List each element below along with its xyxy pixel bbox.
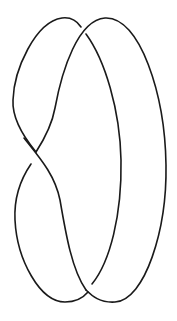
strand-inner-arc: [86, 34, 121, 284]
knot-strands: [13, 18, 166, 302]
strand-lower-left-arc: [15, 164, 88, 302]
strand-diagonal: [24, 138, 86, 290]
knot-diagram: [0, 0, 177, 321]
